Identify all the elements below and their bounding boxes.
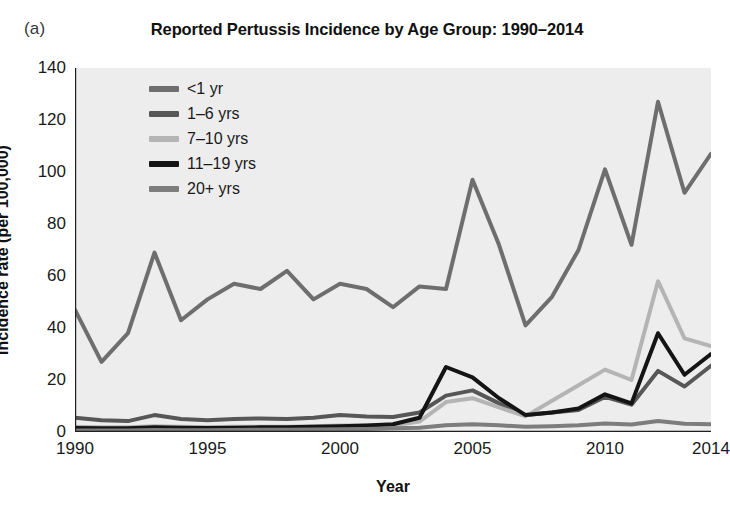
legend-label: 20+ yrs: [187, 180, 240, 198]
y-tick-label: 100: [38, 162, 66, 182]
legend-swatch-icon: [149, 86, 179, 92]
x-tick-label: 1995: [189, 439, 227, 459]
x-axis-title: Year: [75, 478, 711, 496]
legend-swatch-icon: [149, 136, 179, 142]
series-line: [75, 281, 711, 427]
y-tick-label: 140: [38, 58, 66, 78]
y-axis-title: Incidence rate (per 100,000): [0, 68, 14, 432]
legend-swatch-icon: [149, 111, 179, 117]
legend-label: 1–6 yrs: [187, 105, 239, 123]
legend-label: 11–19 yrs: [187, 155, 256, 173]
plot-area: 020406080100120140 199019952000200520102…: [75, 68, 711, 432]
x-tick-label: 1990: [56, 439, 94, 459]
legend-swatch-icon: [149, 186, 179, 192]
legend-item[interactable]: 1–6 yrs: [149, 105, 256, 123]
y-tick-label: 40: [47, 318, 66, 338]
legend-swatch-icon: [149, 161, 179, 167]
y-tick-label: 20: [47, 370, 66, 390]
panel-label: (a): [24, 19, 45, 39]
y-tick-label: 80: [47, 214, 66, 234]
series-line: [75, 333, 711, 428]
x-tick-label: 2005: [454, 439, 492, 459]
legend-label: 7–10 yrs: [187, 130, 248, 148]
x-tick-label: 2010: [586, 439, 624, 459]
y-tick-label: 120: [38, 110, 66, 130]
chart-title: Reported Pertussis Incidence by Age Grou…: [97, 20, 637, 39]
legend-item[interactable]: 20+ yrs: [149, 180, 256, 198]
legend-item[interactable]: <1 yr: [149, 80, 256, 98]
legend-label: <1 yr: [187, 80, 223, 98]
legend-item[interactable]: 7–10 yrs: [149, 130, 256, 148]
x-tick-label: 2000: [321, 439, 359, 459]
chart-legend: <1 yr1–6 yrs7–10 yrs11–19 yrs20+ yrs: [149, 80, 256, 198]
legend-item[interactable]: 11–19 yrs: [149, 155, 256, 173]
x-tick-label: 2014: [692, 439, 730, 459]
y-tick-label: 60: [47, 266, 66, 286]
